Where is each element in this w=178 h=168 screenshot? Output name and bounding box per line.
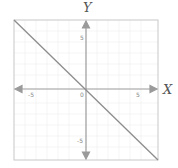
coordinate-plane: Y X -5 0 5 5 -5 (0, 0, 178, 168)
y-tick-label: -5 (77, 137, 83, 144)
x-tick-label: -5 (28, 91, 34, 98)
x-axis-label: X (162, 82, 173, 97)
y-axis-up-arrow-icon (83, 21, 90, 28)
y-axis-down-arrow-icon (83, 152, 90, 159)
x-axis-left-arrow-icon (15, 86, 22, 93)
y-tick-label: 5 (80, 34, 84, 41)
x-axis-right-arrow-icon (150, 86, 157, 93)
x-tick-label: 5 (136, 91, 140, 98)
x-tick-label: 0 (80, 91, 84, 98)
y-axis-label: Y (83, 0, 93, 15)
